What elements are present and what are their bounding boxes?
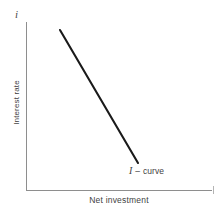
y-axis-label: Interest rate [12, 63, 21, 143]
curve-svg [0, 0, 219, 214]
curve-label: I – curve [129, 165, 164, 176]
x-axis-label: Net investment [26, 195, 212, 205]
curve-label-symbol: I [129, 165, 132, 176]
y-axis-symbol: i [15, 8, 18, 20]
investment-curve-line [60, 30, 138, 163]
curve-label-word: curve [143, 166, 164, 176]
investment-demand-chart: i Interest rate Net investment I – curve [0, 0, 219, 214]
curve-label-dash: – [135, 166, 140, 176]
